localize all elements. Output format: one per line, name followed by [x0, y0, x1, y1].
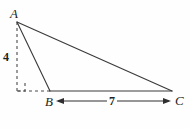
edge-ab-line — [17, 22, 50, 91]
dimension-arrowhead-left-icon — [56, 98, 64, 104]
edge-ac-line — [17, 22, 172, 91]
vertex-label-b: B — [45, 95, 53, 108]
vertex-label-c: C — [175, 94, 184, 107]
triangle-geometry-canvas — [0, 0, 190, 129]
vertex-label-a: A — [10, 7, 18, 20]
height-measure-label: 4 — [3, 51, 9, 63]
right-angle-marker-icon — [17, 83, 25, 91]
triangle-diagram: A B C 4 7 — [0, 0, 190, 129]
base-measure-label: 7 — [107, 95, 117, 107]
dimension-arrowhead-right-icon — [163, 98, 171, 104]
